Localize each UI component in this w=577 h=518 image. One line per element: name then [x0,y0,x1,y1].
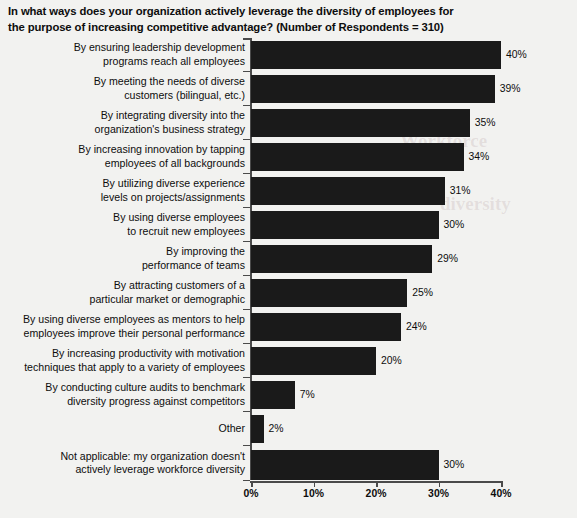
bar-category-label: By meeting the needs of diverse customer… [0,75,245,102]
bar-category-label: By ensuring leadership development progr… [0,41,245,68]
bar-category-label: By conducting culture audits to benchmar… [0,381,245,408]
bar-row: By integrating diversity into the organi… [0,106,577,140]
x-axis-tick-label: 40% [491,488,512,499]
bar-row: By using diverse employees as mentors to… [0,310,577,344]
bar-value-label: 31% [450,185,471,196]
bar [251,347,376,375]
x-axis-tick [376,481,378,487]
bar [251,177,445,205]
x-axis-tick-label: 30% [428,488,449,499]
bar-value-label: 2% [269,423,284,434]
category-axis-tick-top [243,38,250,40]
bar-value-label: 29% [437,253,458,264]
bar-category-label: Not applicable: my organization doesn't … [0,450,245,477]
bar-category-label: Other [0,422,245,435]
x-axis-tick-label: 10% [303,488,324,499]
bar [251,109,470,137]
bar-row: Not applicable: my organization doesn't … [0,446,577,481]
bar-value-label: 25% [412,287,433,298]
bar-row: By increasing productivity with motivati… [0,344,577,378]
bar [251,75,495,103]
bar-category-label: By attracting customers of a particular … [0,279,245,306]
x-axis-tick [314,481,316,487]
bar [251,313,401,341]
chart-page: In what ways does your organization acti… [0,0,577,518]
x-axis-tick [251,481,253,487]
bar-row: By using diverse employees to recruit ne… [0,208,577,242]
bar [251,211,439,239]
bar-category-label: By integrating diversity into the organi… [0,109,245,136]
x-axis-tick [439,481,441,487]
bar [251,279,407,307]
bar-row: By attracting customers of a particular … [0,276,577,310]
bar-value-label: 40% [506,49,527,60]
bar-category-label: By utilizing diverse experience levels o… [0,177,245,204]
bar-row: By improving the performance of teams29% [0,242,577,276]
bar [251,143,464,171]
bar-row: By conducting culture audits to benchmar… [0,378,577,412]
bar-value-label: 30% [444,459,465,470]
bar-category-label: By using diverse employees to recruit ne… [0,211,245,238]
bar-row: Other2% [0,412,577,446]
chart-title: In what ways does your organization acti… [8,4,460,35]
bar-value-label: 24% [406,321,427,332]
bar-row: By utilizing diverse experience levels o… [0,174,577,208]
bar [251,381,295,409]
category-axis-tick [243,480,250,482]
bar-value-label: 39% [500,83,521,94]
x-axis-tick-label: 0% [243,488,258,499]
bar-value-label: 30% [444,219,465,230]
bar-row: By ensuring leadership development progr… [0,38,577,72]
bar-value-label: 35% [475,117,496,128]
bar [251,41,501,69]
bar-row: By meeting the needs of diverse customer… [0,72,577,106]
bar-value-label: 34% [469,151,490,162]
x-axis-tick [501,481,503,487]
bar-category-label: By using diverse employees as mentors to… [0,313,245,340]
bar [251,245,432,273]
bar [251,415,264,443]
bar-category-label: By increasing innovation by tapping empl… [0,143,245,170]
bar [251,450,439,480]
bar-category-label: By improving the performance of teams [0,245,245,272]
bar-category-label: By increasing productivity with motivati… [0,347,245,374]
bar-row: By increasing innovation by tapping empl… [0,140,577,174]
x-axis-tick-label: 20% [366,488,387,499]
bar-value-label: 20% [381,355,402,366]
plot-area: By ensuring leadership development progr… [0,38,577,480]
bar-value-label: 7% [300,389,315,400]
